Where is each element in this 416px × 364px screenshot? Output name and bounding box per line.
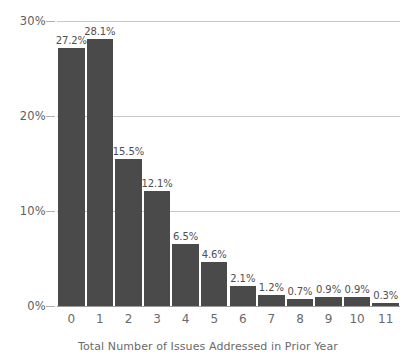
bar-value-label: 0.3% <box>364 290 407 301</box>
x-axis-tick-label: 7 <box>268 312 276 326</box>
y-axis-tick-label: 30% <box>2 14 46 28</box>
x-axis-tick-label: 0 <box>67 312 75 326</box>
y-axis-tick-label: 20% <box>2 109 46 123</box>
bar-value-label: 28.1% <box>79 26 122 37</box>
x-axis-tick-label: 11 <box>378 312 393 326</box>
x-axis-tick-label: 4 <box>182 312 190 326</box>
bar-value-label: 4.6% <box>193 249 236 260</box>
x-axis-title: Total Number of Issues Addressed in Prio… <box>0 340 416 353</box>
bar-value-label: 6.5% <box>164 231 207 242</box>
x-axis-tick-label: 9 <box>325 312 333 326</box>
y-tick-mark <box>46 21 55 22</box>
bar <box>372 303 399 306</box>
y-tick-mark <box>46 306 55 307</box>
bar <box>315 297 342 306</box>
x-axis-tick-label: 10 <box>349 312 364 326</box>
bar-chart: 0%10%20%30% 27.2%28.1%15.5%12.1%6.5%4.6%… <box>0 0 416 364</box>
x-axis-tick-label: 3 <box>153 312 161 326</box>
bar <box>144 191 171 306</box>
y-tick-mark <box>46 211 55 212</box>
x-axis: 01234567891011 <box>57 312 400 330</box>
bar <box>287 299 314 306</box>
x-axis-tick-label: 5 <box>210 312 218 326</box>
bar <box>87 39 114 306</box>
bar <box>58 48 85 306</box>
bar <box>201 262 228 306</box>
gridline-30pct <box>57 21 400 22</box>
plot-area: 27.2%28.1%15.5%12.1%6.5%4.6%2.1%1.2%0.7%… <box>57 21 400 306</box>
y-tick-mark <box>46 116 55 117</box>
bar-value-label: 12.1% <box>136 178 179 189</box>
x-axis-tick-label: 6 <box>239 312 247 326</box>
x-axis-tick-label: 1 <box>96 312 104 326</box>
bar-value-label: 15.5% <box>107 146 150 157</box>
gridline-0pct <box>57 306 400 307</box>
x-axis-tick-label: 2 <box>125 312 133 326</box>
y-axis-tick-label: 0% <box>2 299 46 313</box>
y-axis: 0%10%20%30% <box>0 21 46 306</box>
x-axis-tick-label: 8 <box>296 312 304 326</box>
y-axis-tick-label: 10% <box>2 204 46 218</box>
